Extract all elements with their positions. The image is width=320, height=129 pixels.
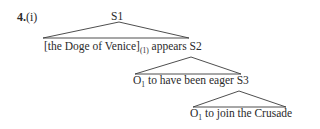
verb-appears: appears <box>149 40 190 52</box>
level1-phrase: [the Doge of Venice](1) appears S2 <box>44 41 202 53</box>
level3-phrase: O1 to join the Crusade <box>190 108 292 120</box>
level2-phrase: O1 to have been eager S3 <box>133 75 249 87</box>
triangle-s2 <box>135 57 241 74</box>
subject-bracket: [the Doge of Venice] <box>44 40 140 52</box>
triangle-s3 <box>193 91 286 107</box>
infinitive-clause: to have been eager <box>145 74 237 86</box>
subject-index: (1) <box>140 46 149 55</box>
node-s3: S3 <box>237 74 249 86</box>
triangle-s1 <box>43 22 189 38</box>
join-clause: to join the Crusade <box>202 107 292 119</box>
node-s2: S2 <box>190 40 202 52</box>
